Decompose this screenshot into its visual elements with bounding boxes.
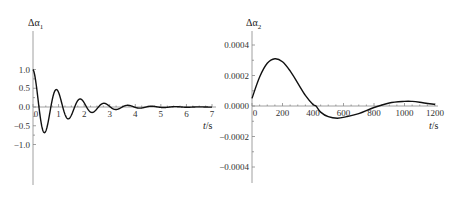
x-tick-label: 5 bbox=[159, 109, 164, 119]
x-tick-label: 4 bbox=[133, 109, 138, 119]
x-tick-label: 1000 bbox=[396, 108, 415, 118]
y-axis-title-right: Δα2 bbox=[246, 17, 262, 31]
x-axis-title-left: t/s bbox=[203, 120, 213, 131]
y-tick-label: −0.5 bbox=[14, 121, 31, 131]
y-tick-label: 0.0004 bbox=[224, 40, 249, 50]
y-tick-label: 1.0 bbox=[19, 65, 31, 75]
x-tick-label: 2 bbox=[82, 109, 87, 119]
plot-delta-alpha-2: 0.00040.00020.0000−0.0002−0.0004 0200400… bbox=[219, 17, 444, 183]
x-axis-title-right: t/s bbox=[429, 120, 439, 131]
y-tick-label: 0.5 bbox=[19, 83, 31, 93]
x-tick-label: 200 bbox=[276, 108, 290, 118]
chart-figure: 1.00.50.0−0.5−1.0 01234567 Δα1 t/s 0.000… bbox=[0, 0, 458, 198]
x-tick-label: 0 bbox=[253, 108, 258, 118]
y-tick-label: −0.0004 bbox=[219, 162, 249, 172]
x-tick-label: 7 bbox=[210, 109, 215, 119]
y-ticks-right: 0.00040.00020.0000−0.0002−0.0004 bbox=[219, 40, 255, 172]
y-axis-title-left: Δα1 bbox=[28, 17, 44, 31]
x-tick-label: 3 bbox=[107, 109, 112, 119]
y-tick-label: −0.0002 bbox=[219, 132, 249, 142]
x-tick-label: 1200 bbox=[426, 108, 445, 118]
x-tick-label: 1 bbox=[56, 109, 61, 119]
y-tick-label: 0.0 bbox=[19, 102, 31, 112]
curve-delta-alpha-1 bbox=[33, 70, 212, 133]
y-tick-label: 0.0002 bbox=[224, 71, 249, 81]
plot-delta-alpha-1: 1.00.50.0−0.5−1.0 01234567 Δα1 t/s bbox=[14, 17, 216, 185]
x-tick-label: 6 bbox=[184, 109, 189, 119]
y-tick-label: −1.0 bbox=[14, 140, 31, 150]
y-tick-label: 0.0000 bbox=[224, 101, 249, 111]
x-tick-label: 0 bbox=[34, 109, 39, 119]
